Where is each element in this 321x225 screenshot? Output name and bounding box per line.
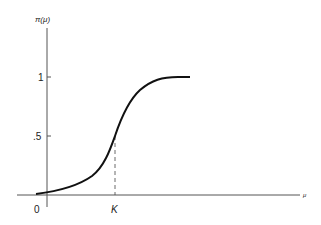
pi-curve <box>36 77 190 194</box>
y-tick-label-half: .5 <box>33 131 42 142</box>
k-label: K <box>111 204 119 215</box>
origin-label: 0 <box>34 204 40 215</box>
y-axis-label: π(μ) <box>35 15 50 24</box>
y-tick-label-1: 1 <box>38 72 44 83</box>
chart-canvas: π(μ) 1 .5 0 K μ <box>0 0 321 225</box>
x-axis-label: μ <box>302 192 307 198</box>
